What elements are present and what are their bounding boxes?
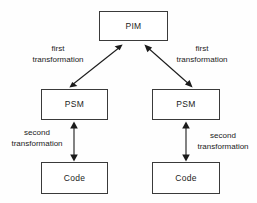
edge-label-second-right-line2: transformation [190,142,256,153]
edge-label-second-transformation-right: second transformation [190,131,256,152]
node-pim[interactable]: PIM [99,11,168,41]
edge-label-first-transformation-right: first transformation [160,44,244,65]
edge-label-first-left-line1: first [17,44,99,55]
node-psm-right-label: PSM [176,100,195,109]
node-psm-left[interactable]: PSM [41,89,108,120]
edge-label-second-left-line1: second [2,128,72,139]
node-pim-label: PIM [125,22,141,31]
edge-psm-code-right [182,122,190,162]
node-code-left-label: Code [64,174,86,183]
node-psm-left-label: PSM [65,100,84,109]
node-code-right[interactable]: Code [152,162,220,194]
edge-label-second-left-line2: transformation [2,139,72,150]
node-psm-right[interactable]: PSM [152,89,220,120]
edge-label-first-right-line1: first [160,44,244,55]
node-code-left[interactable]: Code [41,162,108,194]
edge-label-second-transformation-left: second transformation [2,128,72,149]
diagram-canvas: PIM PSM PSM Code Code first transformati… [0,0,257,203]
edge-label-first-right-line2: transformation [160,55,244,66]
edge-label-first-left-line2: transformation [17,55,99,66]
edge-label-second-right-line1: second [190,131,256,142]
edge-label-first-transformation-left: first transformation [17,44,99,65]
node-code-right-label: Code [175,174,197,183]
